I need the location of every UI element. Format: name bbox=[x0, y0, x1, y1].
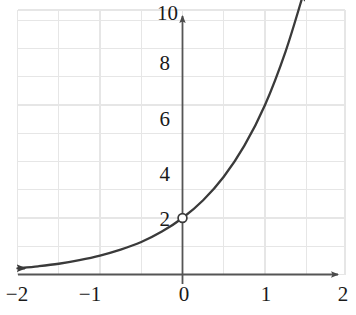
x-tick-label-1: 1 bbox=[249, 284, 283, 305]
grid-lines-horizontal bbox=[18, 10, 345, 275]
graph-figure: 10 8 6 4 2 −2 −1 0 1 2 bbox=[0, 0, 356, 315]
grid-lines-vertical bbox=[18, 10, 346, 275]
y-tick-label-10: 10 bbox=[157, 3, 178, 24]
y-tick-label-2: 2 bbox=[160, 209, 171, 230]
x-tick-label-2: 2 bbox=[330, 284, 356, 305]
x-tick-label-minus2: −2 bbox=[0, 284, 34, 305]
plot-canvas bbox=[0, 0, 356, 315]
x-tick-label-minus1: −1 bbox=[73, 284, 107, 305]
y-tick-label-4: 4 bbox=[160, 164, 171, 185]
y-tick-label-8: 8 bbox=[160, 53, 171, 74]
y-tick-label-6: 6 bbox=[160, 109, 171, 130]
open-circle-marker bbox=[178, 214, 187, 223]
x-tick-label-0: 0 bbox=[167, 284, 201, 305]
